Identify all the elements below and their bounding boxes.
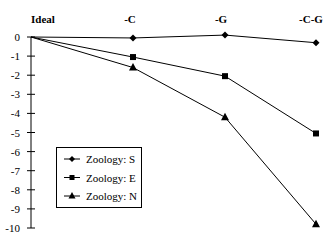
legend-label: Zoology: N xyxy=(86,190,137,202)
y-tick-label: -6 xyxy=(11,146,21,158)
legend-label: Zoology: S xyxy=(86,153,135,165)
triangle-marker-icon xyxy=(221,113,229,121)
series-zoology-e xyxy=(31,37,319,136)
series-line xyxy=(31,35,316,43)
legend: Zoology: SZoology: EZoology: N xyxy=(57,148,142,208)
y-tick-label: -2 xyxy=(11,69,20,81)
series-zoology-s xyxy=(31,32,320,47)
y-tick-label: 0 xyxy=(15,31,21,43)
y-tick-label: -9 xyxy=(11,203,21,215)
y-tick-label: -10 xyxy=(5,222,20,234)
square-marker-icon xyxy=(130,54,136,60)
y-tick-label: -1 xyxy=(11,50,20,62)
y-axis: 0-1-2-3-4-5-6-7-8-9-10 xyxy=(5,31,35,234)
square-marker-icon xyxy=(313,130,319,136)
y-tick-label: -8 xyxy=(11,184,21,196)
category-label: -C xyxy=(124,13,136,25)
category-label: -G xyxy=(215,13,228,25)
diamond-marker-icon xyxy=(130,34,137,41)
diamond-marker-icon xyxy=(313,39,320,46)
category-label: Ideal xyxy=(31,13,55,25)
category-label: -C-G xyxy=(299,13,323,25)
legend-label: Zoology: E xyxy=(86,172,136,184)
y-tick-label: -4 xyxy=(11,107,21,119)
y-tick-label: -5 xyxy=(11,127,21,139)
category-labels: Ideal-C-G-C-G xyxy=(31,13,323,25)
diamond-marker-icon xyxy=(222,32,229,39)
series-line xyxy=(31,37,316,133)
square-marker-icon xyxy=(70,175,75,180)
y-tick-label: -7 xyxy=(11,165,21,177)
square-marker-icon xyxy=(222,73,228,79)
y-tick-label: -3 xyxy=(11,88,21,100)
line-chart: Ideal-C-G-C-G 0-1-2-3-4-5-6-7-8-9-10 Zoo… xyxy=(0,0,334,242)
